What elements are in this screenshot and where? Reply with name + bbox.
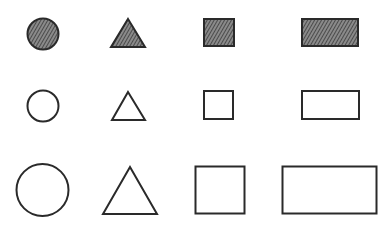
hatched-triangle: [111, 19, 145, 47]
outline-rectangle-large: [283, 167, 377, 214]
outline-triangle-small: [112, 92, 145, 120]
row-outline-large: [17, 164, 377, 216]
row-outline-small: [28, 91, 360, 122]
hatched-square: [204, 19, 234, 46]
outline-square-large: [196, 167, 245, 214]
hatched-rectangle: [302, 19, 358, 46]
row-hatched-small: [28, 19, 359, 50]
hatched-circle: [28, 19, 59, 50]
outline-circle-large: [17, 164, 69, 216]
shapes-diagram: [0, 0, 389, 228]
outline-square-small: [204, 91, 233, 119]
outline-circle-small: [28, 91, 59, 122]
outline-triangle-large: [103, 167, 157, 214]
outline-rectangle-small: [302, 91, 359, 119]
